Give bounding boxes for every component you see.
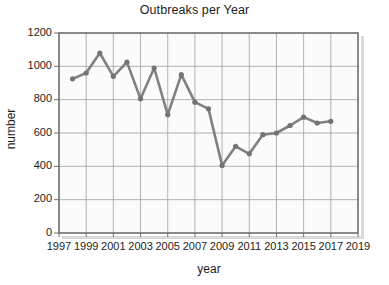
x-tick-label: 2019 [338,240,378,252]
data-point-marker [301,115,306,120]
chart-container: Outbreaks per Year number year 120010008… [0,0,389,285]
data-point-marker [219,163,224,168]
plot-shadow-right [361,36,364,239]
data-point-marker [328,119,333,124]
data-point-marker [70,76,75,81]
data-point-marker [315,120,320,125]
data-point-marker [233,144,238,149]
data-point-marker [247,151,252,156]
y-tick-label: 1200 [14,26,52,38]
data-point-marker [287,123,292,128]
data-point-marker [192,100,197,105]
y-tick-label: 0 [14,226,52,238]
plot-shadow-bottom [62,236,361,239]
data-point-marker [97,50,102,55]
data-point-marker [260,132,265,137]
y-tick-label: 600 [14,126,52,138]
data-point-marker [111,74,116,79]
y-tick-label: 800 [14,92,52,104]
data-point-marker [274,130,279,135]
data-point-marker [84,70,89,75]
data-point-marker [138,96,143,101]
data-point-marker [152,65,157,70]
y-tick-label: 1000 [14,59,52,71]
data-point-marker [206,106,211,111]
data-point-marker [179,72,184,77]
y-tick-label: 200 [14,192,52,204]
y-tick-label: 400 [14,159,52,171]
data-point-marker [124,60,129,65]
data-point-marker [165,112,170,117]
